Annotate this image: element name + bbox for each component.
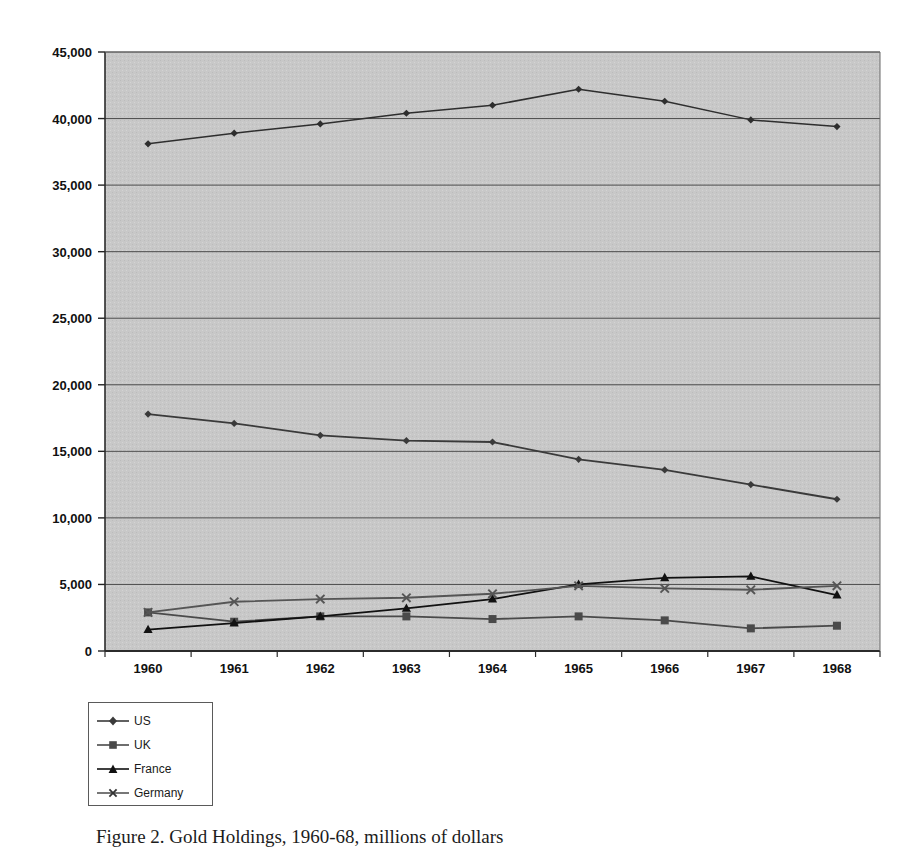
y-axis-tick-label: 30,000: [52, 245, 92, 260]
x-axis-tick-label: 1963: [392, 661, 421, 676]
legend-label-germany: Germany: [134, 786, 183, 800]
square-marker-icon: [661, 616, 669, 624]
square-marker-icon: [575, 612, 583, 620]
figure-container: 05,00010,00015,00020,00025,00030,00035,0…: [0, 0, 910, 850]
y-axis-tick-label: 5,000: [59, 577, 92, 592]
x-marker-icon: [96, 786, 130, 800]
x-axis-tick-label: 1967: [736, 661, 765, 676]
y-axis-tick-label: 0: [85, 644, 92, 659]
legend-item-us: US: [89, 709, 212, 733]
x-axis-tick-label: 1966: [650, 661, 679, 676]
legend-item-france: France: [89, 757, 212, 781]
x-axis-tick-label: 1965: [564, 661, 593, 676]
y-axis-tick-label: 40,000: [52, 112, 92, 127]
chart-legend: US UK France Germany: [88, 702, 213, 806]
x-axis-tick-label: 1964: [478, 661, 508, 676]
diamond-marker-icon: [96, 714, 130, 728]
x-axis-tick-label: 1962: [306, 661, 335, 676]
y-axis-tick-label: 25,000: [52, 311, 92, 326]
figure-caption: Figure 2. Gold Holdings, 1960-68, millio…: [96, 826, 886, 848]
square-marker-icon: [96, 738, 130, 752]
y-axis-tick-label: 15,000: [52, 444, 92, 459]
x-axis-tick-label: 1960: [134, 661, 163, 676]
chart-canvas: 05,00010,00015,00020,00025,00030,00035,0…: [0, 0, 910, 690]
square-marker-icon: [833, 622, 841, 630]
legend-label-france: France: [134, 762, 171, 776]
plot-area-texture: [105, 52, 880, 651]
line-chart: 05,00010,00015,00020,00025,00030,00035,0…: [0, 0, 910, 690]
y-axis-tick-label: 35,000: [52, 178, 92, 193]
square-marker-icon: [747, 624, 755, 632]
legend-label-us: US: [134, 714, 151, 728]
legend-item-uk: UK: [89, 733, 212, 757]
y-axis-tick-label: 10,000: [52, 511, 92, 526]
x-axis-tick-label: 1961: [220, 661, 249, 676]
square-marker-icon: [402, 612, 410, 620]
y-axis-tick-label: 20,000: [52, 378, 92, 393]
x-axis-tick-label: 1968: [822, 661, 851, 676]
triangle-marker-icon: [96, 762, 130, 776]
square-marker-icon: [489, 615, 497, 623]
legend-item-germany: Germany: [89, 781, 212, 805]
legend-label-uk: UK: [134, 738, 151, 752]
y-axis-tick-label: 45,000: [52, 45, 92, 60]
